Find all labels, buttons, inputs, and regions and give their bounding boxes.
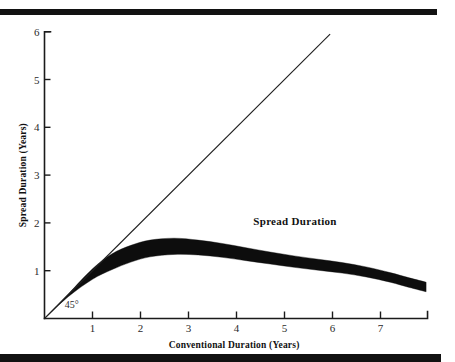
y-axis-tick-labels: 123456 <box>34 26 40 277</box>
x-tick-label: 2 <box>138 322 144 334</box>
axes-group: 123456 1234567 <box>34 26 428 334</box>
y-tick-label: 1 <box>34 265 40 277</box>
y-tick-label: 3 <box>34 169 40 181</box>
y-tick-label: 5 <box>34 74 40 86</box>
chart-figure: 123456 1234567 Spread Duration 45° Conve… <box>0 0 455 362</box>
chart-svg: 123456 1234567 Spread Duration 45° Conve… <box>0 0 455 362</box>
y-tick-label: 4 <box>34 121 40 133</box>
angle-annotation: 45° <box>65 299 79 310</box>
x-axis-title: Conventional Duration (Years) <box>169 340 300 351</box>
x-tick-label: 1 <box>90 322 96 334</box>
y-tick-label: 6 <box>34 26 40 38</box>
x-tick-label: 6 <box>330 322 336 334</box>
x-tick-label: 5 <box>282 322 288 334</box>
y-axis-ticks <box>45 32 51 271</box>
x-axis-ticks <box>93 312 381 319</box>
y-tick-label: 2 <box>34 217 40 229</box>
y-axis-title: Spread Duration (Years) <box>18 123 29 227</box>
x-axis-tick-labels: 1234567 <box>90 322 384 334</box>
x-tick-label: 3 <box>186 322 192 334</box>
spread-duration-annotation: Spread Duration <box>253 215 336 227</box>
forty-five-degree-line <box>45 34 331 318</box>
x-tick-label: 7 <box>378 322 384 334</box>
x-tick-label: 4 <box>234 322 240 334</box>
spread-duration-band <box>45 238 427 318</box>
